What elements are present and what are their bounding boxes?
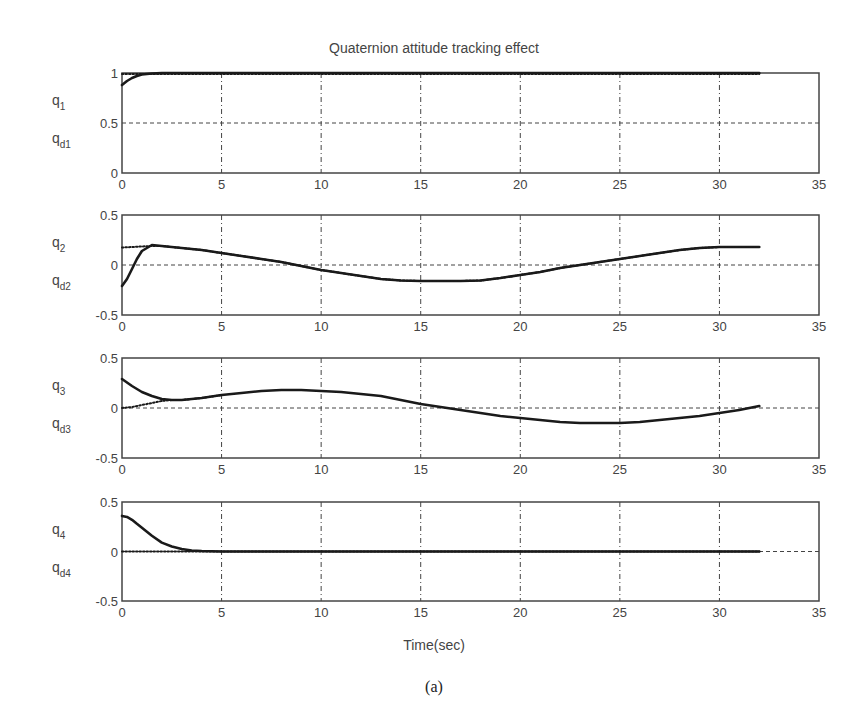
subplot-2: 05101520253035-0.500.5q2qd2 [52,208,826,334]
y-label-actual: q1 [52,92,66,112]
x-tick-label: 15 [413,605,427,620]
x-axis-label: Time(sec) [0,637,868,653]
y-label-desired: qd1 [52,130,71,150]
x-tick-label: 35 [812,319,826,334]
axes-box [122,215,819,315]
y-tick-label: 0 [111,258,118,273]
y-tick-label: -0.5 [96,594,118,609]
x-tick-label: 30 [712,605,726,620]
subplot-3: 05101520253035-0.500.5q3qd3 [52,351,826,477]
x-tick-label: 5 [218,605,225,620]
x-tick-label: 20 [513,605,527,620]
y-tick-label: 0 [111,545,118,560]
y-tick-label: -0.5 [96,308,118,323]
x-tick-label: 20 [513,319,527,334]
x-tick-label: 5 [218,319,225,334]
subplot-1: 0510152025303500.51q1qd1 [52,66,826,192]
x-tick-label: 0 [118,319,125,334]
x-tick-label: 20 [513,462,527,477]
x-tick-label: 0 [118,177,125,192]
y-tick-label: 0 [111,401,118,416]
y-tick-label: -0.5 [96,451,118,466]
x-tick-label: 15 [413,177,427,192]
axes-box [122,73,819,173]
x-tick-label: 35 [812,177,826,192]
y-tick-label: 1 [111,66,118,81]
y-tick-label: 0.5 [100,351,118,366]
x-tick-label: 0 [118,462,125,477]
axes-box [122,358,819,458]
x-tick-label: 10 [314,177,328,192]
subplot-4: 05101520253035-0.500.5q4qd4 [52,495,826,620]
x-tick-label: 25 [613,605,627,620]
x-tick-label: 30 [712,319,726,334]
x-tick-label: 5 [218,177,225,192]
x-tick-label: 10 [314,462,328,477]
x-tick-label: 25 [613,462,627,477]
x-tick-label: 15 [413,319,427,334]
x-tick-label: 20 [513,177,527,192]
y-label-actual: q4 [52,521,66,541]
y-label-desired: qd3 [52,415,71,435]
x-tick-label: 15 [413,462,427,477]
x-tick-label: 25 [613,319,627,334]
x-tick-label: 5 [218,462,225,477]
x-tick-label: 30 [712,177,726,192]
y-tick-label: 0.5 [100,116,118,131]
y-label-desired: qd4 [52,559,71,579]
x-tick-label: 35 [812,462,826,477]
y-label-desired: qd2 [52,272,71,292]
figure-canvas: 0510152025303500.51q1qd105101520253035-0… [0,0,868,713]
x-tick-label: 10 [314,605,328,620]
y-tick-label: 0.5 [100,208,118,223]
x-tick-label: 10 [314,319,328,334]
y-tick-label: 0 [111,166,118,181]
y-tick-label: 0.5 [100,495,118,510]
x-tick-label: 0 [118,605,125,620]
x-tick-label: 30 [712,462,726,477]
y-label-actual: q2 [52,234,66,254]
x-tick-label: 25 [613,177,627,192]
x-tick-label: 35 [812,605,826,620]
figure-caption: (a) [0,678,868,696]
y-label-actual: q3 [52,377,66,397]
